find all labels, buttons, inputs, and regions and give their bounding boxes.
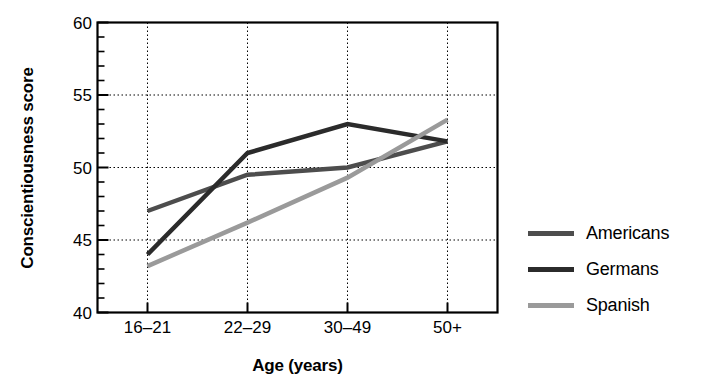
legend-label: Germans [586,259,659,280]
y-tick-label: 45 [56,232,92,249]
y-axis-title: Conscientiousness score [14,18,42,318]
gridlines-group [98,23,498,313]
axis-major-ticks-group [148,303,448,313]
y-minor-ticks-group [98,23,109,313]
legend-color-swatch [528,231,574,236]
chart-legend: AmericansGermansSpanish [528,215,718,323]
legend-label: Americans [586,223,669,244]
y-tick-label: 60 [56,15,92,32]
legend-item: Germans [528,251,718,287]
line-chart-figure: Conscientiousness score Age (years) 6055… [0,0,724,392]
x-axis-title: Age (years) [97,356,498,376]
x-tick-label: 50+ [388,318,508,338]
legend-color-swatch [528,267,574,272]
legend-item: Spanish [528,287,718,323]
data-series-group [148,120,448,266]
legend-color-swatch [528,303,574,308]
legend-item: Americans [528,215,718,251]
y-tick-label: 55 [56,87,92,104]
legend-label: Spanish [586,295,650,316]
y-tick-label: 50 [56,160,92,177]
